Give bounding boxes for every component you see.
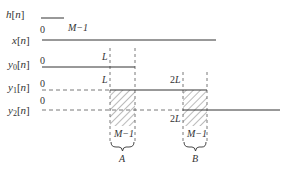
- region-a-brace: [111, 142, 134, 151]
- y2-signal-label: y2[n]: [7, 104, 30, 118]
- region-b-brace: [184, 142, 206, 151]
- y0-start-label: 0: [40, 55, 45, 66]
- region-a-label: A: [118, 153, 126, 164]
- y0-L-label: L: [101, 51, 108, 62]
- region-b-hatch: [183, 90, 207, 126]
- overlap-add-diagram: h[n] 0 M−1 x[n] y0[n] 0 L y1[n] 0 L 2L y…: [0, 0, 288, 172]
- h-signal-label: h[n]: [6, 8, 24, 20]
- region-a-width-label: M−1: [113, 128, 134, 139]
- x-start-label: 0: [40, 24, 45, 35]
- y1-L-label: L: [101, 74, 108, 85]
- y2-start-label: 0: [40, 95, 45, 106]
- region-b-width-label: M−1: [186, 128, 207, 139]
- y0-signal-label: y0[n]: [7, 58, 30, 72]
- region-b-label: B: [192, 153, 198, 164]
- x-signal-label: x[n]: [11, 34, 30, 46]
- h-end-label: M−1: [67, 22, 88, 33]
- y1-start-label: 0: [40, 78, 45, 89]
- y2-2L-label: 2L: [170, 113, 181, 124]
- region-a-hatch: [110, 90, 135, 126]
- y1-2L-label: 2L: [170, 74, 181, 85]
- y1-signal-label: y1[n]: [7, 81, 30, 95]
